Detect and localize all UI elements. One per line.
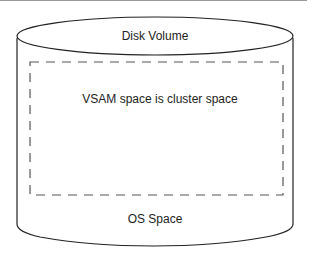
disk-volume-label: Disk Volume (95, 29, 215, 43)
vsam-space-label: VSAM space is cluster space (60, 92, 260, 106)
os-space-label: OS Space (110, 212, 200, 226)
vsam-region (30, 62, 283, 195)
